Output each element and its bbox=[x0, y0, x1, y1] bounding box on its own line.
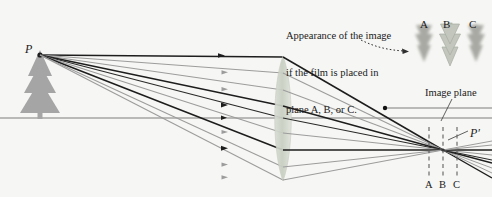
film-plane-label-B: B bbox=[439, 179, 446, 191]
image-point-label-Pprime: P′ bbox=[470, 126, 480, 140]
image-plane-label: Image plane bbox=[425, 87, 477, 99]
lens-ray-diagram-figure: Appearance of the image if the film is p… bbox=[0, 0, 492, 197]
diagram-canvas bbox=[0, 0, 492, 197]
caption-line-1: Appearance of the image bbox=[286, 30, 391, 42]
object-point-label-P: P bbox=[25, 42, 32, 56]
caption-line-3: plane A, B, or C. bbox=[286, 104, 391, 116]
film-plane-label-A: A bbox=[425, 179, 433, 191]
preview-label-B: B bbox=[443, 18, 450, 31]
preview-label-A: A bbox=[420, 18, 428, 31]
preview-label-C: C bbox=[469, 18, 476, 31]
film-plane-label-C: C bbox=[453, 179, 460, 191]
caption-text-block: Appearance of the image if the film is p… bbox=[286, 5, 391, 141]
caption-line-2: if the film is placed in bbox=[286, 67, 391, 79]
